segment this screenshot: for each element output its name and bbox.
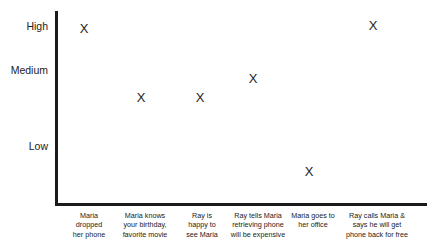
- x-category-label: Ray calls Maria & says he will get phone…: [337, 211, 417, 239]
- data-point-x: X: [80, 22, 89, 35]
- data-point-x: X: [196, 91, 205, 104]
- y-tick-medium: Medium: [11, 64, 48, 76]
- y-tick-high: High: [26, 20, 48, 32]
- plot-chart: High Medium Low X X X X X X Maria droppe…: [0, 0, 440, 249]
- x-axis-line: [55, 203, 427, 206]
- data-point-x: X: [249, 72, 258, 85]
- data-point-x: X: [369, 19, 378, 32]
- data-point-x: X: [137, 91, 146, 104]
- y-axis-line: [55, 11, 58, 206]
- y-tick-low: Low: [29, 140, 48, 152]
- data-point-x: X: [305, 165, 314, 178]
